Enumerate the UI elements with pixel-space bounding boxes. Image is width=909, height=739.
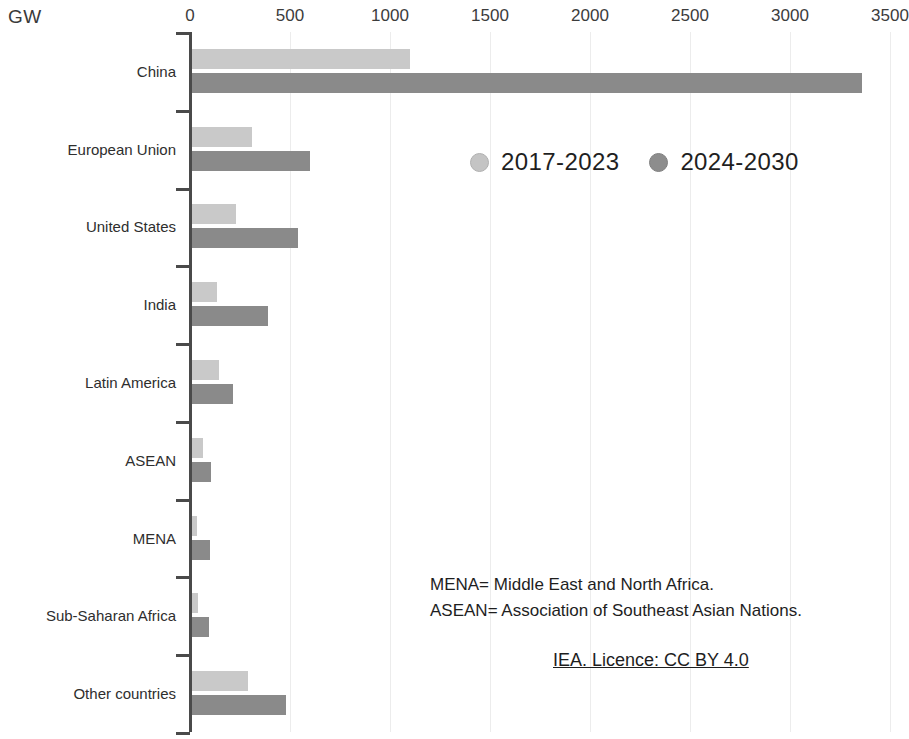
legend-label-2024-2030: 2024-2030: [680, 148, 798, 176]
bar-latin-america-2024-2030: [192, 384, 233, 404]
x-gridline: [490, 32, 491, 732]
x-gridline: [290, 32, 291, 732]
x-axis-tick-label: 2500: [671, 6, 709, 26]
footnote-asean: ASEAN= Association of Southeast Asian Na…: [430, 598, 802, 624]
iea-licence-link[interactable]: IEA. Licence: CC BY 4.0: [553, 650, 749, 671]
y-axis-tick: [176, 499, 190, 502]
legend-swatch-icon: [649, 153, 668, 172]
bar-india-2024-2030: [192, 306, 268, 326]
x-axis-tick-label: 3000: [771, 6, 809, 26]
y-axis-tick: [176, 110, 190, 113]
x-gridline: [890, 32, 891, 732]
y-axis-tick: [176, 32, 190, 35]
y-axis-tick: [176, 421, 190, 424]
x-gridline: [590, 32, 591, 732]
y-axis-tick: [176, 188, 190, 191]
bar-other-countries-2024-2030: [192, 695, 286, 715]
y-axis-tick: [176, 732, 190, 735]
chart-footnotes: MENA= Middle East and North Africa. ASEA…: [430, 572, 802, 625]
bar-mena-2017-2023: [192, 516, 197, 536]
bar-other-countries-2017-2023: [192, 671, 248, 691]
category-label-latin-america: Latin America: [85, 374, 176, 391]
category-label-india: India: [143, 296, 176, 313]
legend-swatch-icon: [470, 153, 489, 172]
y-axis-tick: [176, 265, 190, 268]
legend-item-2024-2030[interactable]: 2024-2030: [649, 148, 798, 176]
category-label-mena: MENA: [133, 529, 176, 546]
bar-asean-2024-2030: [192, 462, 211, 482]
x-axis-tick-label: 0: [185, 6, 194, 26]
x-axis-tick-label: 1500: [471, 6, 509, 26]
bar-china-2024-2030: [192, 73, 862, 93]
y-axis-tick: [176, 343, 190, 346]
bar-united-states-2017-2023: [192, 204, 236, 224]
y-axis-tick: [176, 576, 190, 579]
x-axis-tick-label: 3500: [871, 6, 909, 26]
bar-asean-2017-2023: [192, 438, 203, 458]
footnote-mena: MENA= Middle East and North Africa.: [430, 572, 802, 598]
legend-item-2017-2023[interactable]: 2017-2023: [470, 148, 619, 176]
bar-india-2017-2023: [192, 282, 217, 302]
plot-area: 0500100015002000250030003500ChinaEuropea…: [190, 32, 890, 732]
bar-mena-2024-2030: [192, 540, 210, 560]
x-axis-tick-label: 1000: [371, 6, 409, 26]
y-axis-unit-label: GW: [8, 6, 42, 28]
category-label-asean: ASEAN: [125, 451, 176, 468]
x-gridline: [690, 32, 691, 732]
chart-legend: 2017-2023 2024-2030: [470, 148, 799, 176]
bar-china-2017-2023: [192, 49, 410, 69]
bar-european-union-2024-2030: [192, 151, 310, 171]
x-gridline: [790, 32, 791, 732]
category-label-sub-saharan-africa: Sub-Saharan Africa: [46, 607, 176, 624]
bar-sub-saharan-africa-2017-2023: [192, 593, 198, 613]
category-label-european-union: European Union: [68, 140, 176, 157]
legend-label-2017-2023: 2017-2023: [501, 148, 619, 176]
category-label-united-states: United States: [86, 218, 176, 235]
bar-european-union-2017-2023: [192, 127, 252, 147]
y-axis-tick: [176, 654, 190, 657]
bar-latin-america-2017-2023: [192, 360, 219, 380]
bar-united-states-2024-2030: [192, 228, 298, 248]
x-axis-tick-label: 2000: [571, 6, 609, 26]
category-label-other-countries: Other countries: [73, 685, 176, 702]
bar-sub-saharan-africa-2024-2030: [192, 617, 209, 637]
x-axis-tick-label: 500: [276, 6, 304, 26]
category-label-china: China: [137, 62, 176, 79]
x-gridline: [390, 32, 391, 732]
